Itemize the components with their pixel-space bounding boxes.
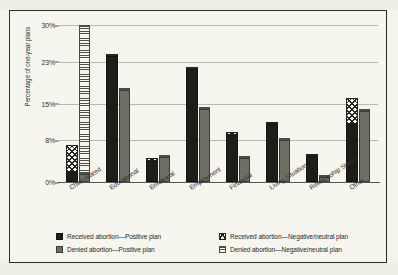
bar-segment: [119, 90, 131, 182]
bar-group: [146, 25, 170, 182]
chart-legend: Received abortion—Positive planDenied ab…: [56, 233, 374, 259]
solid-gray-swatch: [56, 246, 63, 253]
bar: [306, 154, 318, 182]
paper-edge-bottom: [0, 263, 398, 275]
legend-item-label: Received abortion—Positive plan: [67, 233, 161, 240]
bar-segment: [186, 67, 198, 69]
bar-segment: [106, 56, 118, 182]
bar-segment: [186, 69, 198, 182]
bar: [106, 55, 118, 182]
plot-area: [58, 25, 378, 182]
legend-item[interactable]: Denied abortion—Positive plan: [56, 246, 155, 253]
bar-segment: [279, 138, 291, 140]
bar-segment: [159, 155, 171, 157]
bar-segment: [146, 158, 158, 161]
bar: [359, 109, 371, 182]
bar-group: [226, 25, 250, 182]
legend-item[interactable]: Received abortion—Negative/neutral plan: [219, 233, 348, 240]
bar-segment: [199, 107, 211, 109]
bar: [226, 132, 238, 182]
bar: [186, 67, 198, 182]
y-axis-tick-label: 0%: [45, 179, 55, 186]
y-axis-tick-label: 23%: [42, 58, 55, 65]
x-axis-tick-labels: Child-relatedEducationalEmotionalEmploym…: [58, 182, 380, 226]
bar-segment: [359, 109, 371, 112]
legend-item-label: Received abortion—Negative/neutral plan: [230, 233, 348, 240]
horizontal-stripe-swatch: [219, 246, 226, 253]
bar-segment: [226, 135, 238, 182]
paper-edge-top: [0, 0, 398, 10]
y-axis-tick-labels: 0%8%15%23%30%: [28, 25, 55, 182]
bar-segment: [226, 132, 238, 135]
bar-segment: [359, 111, 371, 182]
bar-segment: [346, 124, 358, 182]
bar-segment: [79, 25, 91, 174]
bar: [119, 88, 131, 182]
bar-segment: [66, 145, 78, 171]
bar: [266, 122, 278, 182]
y-axis-tick-label: 15%: [42, 100, 55, 107]
bar-segment: [106, 54, 118, 56]
bar-group: [66, 25, 90, 182]
bar-group: [106, 25, 130, 182]
legend-item-label: Denied abortion—Negative/neutral plan: [230, 246, 342, 253]
chart-figure: Percentage of one-year plans 0%8%15%23%3…: [0, 0, 398, 275]
crosshatch-swatch: [219, 233, 226, 240]
legend-item[interactable]: Denied abortion—Negative/neutral plan: [219, 246, 342, 253]
bar: [66, 145, 78, 182]
legend-item-label: Denied abortion—Positive plan: [67, 246, 155, 253]
chart-frame: Percentage of one-year plans 0%8%15%23%3…: [9, 10, 387, 263]
bar-segment: [239, 156, 251, 158]
bar-segment: [306, 154, 318, 156]
y-axis-tick-label: 8%: [45, 137, 55, 144]
bar-segment: [306, 156, 318, 182]
bar-segment: [266, 122, 278, 125]
bar-segment: [266, 124, 278, 182]
bar-group: [306, 25, 330, 182]
bar-segment: [346, 98, 358, 124]
bar: [346, 98, 358, 182]
solid-black-swatch: [56, 233, 63, 240]
bar-segment: [119, 88, 131, 90]
bar: [79, 25, 91, 182]
y-axis-tick-label: 30%: [42, 22, 55, 29]
bar-group: [186, 25, 210, 182]
bar-group: [266, 25, 290, 182]
legend-item[interactable]: Received abortion—Positive plan: [56, 233, 161, 240]
